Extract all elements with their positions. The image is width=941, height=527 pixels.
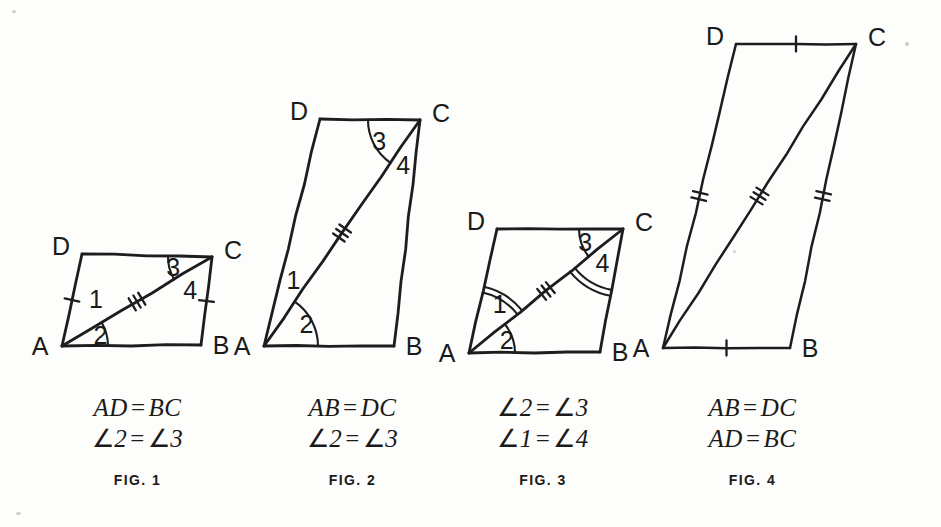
fig3-vertex-label-B: B <box>612 338 629 366</box>
caption-line-1: AD=BC <box>30 392 245 423</box>
figure-4-drawing: ABCD <box>633 22 886 362</box>
fig2-side-DC <box>320 119 420 120</box>
fig4-vertex-label-A: A <box>633 334 650 362</box>
caption-line-2: ∠2=∠3 <box>245 423 460 454</box>
fig2-side-AB <box>264 346 394 347</box>
fig1-tick-AD <box>65 298 80 301</box>
fig4-vertex-label-C: C <box>868 23 886 51</box>
fig1-vertex-label-B: B <box>213 331 230 359</box>
caption-figure-3: ∠2=∠3 ∠1=∠4 FIG. 3 <box>443 392 643 488</box>
caption-line-1: AB=DC <box>645 392 860 423</box>
fig1-side-AB <box>62 345 201 346</box>
fig1-angle-label-3: 3 <box>166 253 180 281</box>
paper-speck <box>733 250 736 253</box>
fig3-angle-label-2: 2 <box>500 326 514 354</box>
paper-speck <box>12 10 16 13</box>
fig2-angle-label-1: 1 <box>287 266 301 294</box>
fig4-tick-BC <box>815 198 830 201</box>
fig2-angle-label-4: 4 <box>396 151 410 179</box>
paper-speck <box>905 42 909 46</box>
figure-board: ABCD1234 ABCD1234 ABCD1234 ABCD AD=BC ∠2… <box>0 0 941 527</box>
caption-line-2: AD=BC <box>645 423 860 454</box>
fig2-vertex-label-B: B <box>406 332 423 360</box>
figure-3-drawing: ABCD1234 <box>439 207 653 367</box>
fig2-vertex-label-D: D <box>290 97 308 125</box>
fig4-side-BC <box>790 44 856 348</box>
fig1-vertex-label-C: C <box>224 236 242 264</box>
figure-number-label: FIG. 1 <box>30 472 245 488</box>
fig1-angle-label-4: 4 <box>183 276 197 304</box>
figure-1-drawing: ABCD1234 <box>32 232 242 360</box>
caption-line-2: ∠1=∠4 <box>443 423 643 454</box>
fig3-side-DC <box>497 229 623 230</box>
fig3-angle-label-4: 4 <box>596 249 610 277</box>
paper-speck <box>16 512 21 515</box>
fig3-side-AB <box>469 352 600 353</box>
caption-line-1: AB=DC <box>245 392 460 423</box>
fig1-angle-label-1: 1 <box>89 285 103 313</box>
fig4-vertex-label-B: B <box>802 334 819 362</box>
figure-2-drawing: ABCD1234 <box>234 97 450 360</box>
fig1-vertex-label-D: D <box>52 232 70 260</box>
fig1-vertex-label-A: A <box>32 332 49 360</box>
fig4-vertex-label-D: D <box>706 22 724 50</box>
caption-figure-2: AB=DC ∠2=∠3 FIG. 2 <box>245 392 460 488</box>
fig3-vertex-label-C: C <box>635 208 653 236</box>
fig1-side-DC <box>82 254 212 257</box>
fig2-angle-label-3: 3 <box>372 127 386 155</box>
fig2-vertex-label-C: C <box>432 99 450 127</box>
figure-number-label: FIG. 3 <box>443 472 643 488</box>
fig1-tick-BC <box>199 300 214 302</box>
fig3-vertex-label-A: A <box>439 339 456 367</box>
caption-figure-4: AB=DC AD=BC FIG. 4 <box>645 392 860 488</box>
fig3-angle-label-1: 1 <box>493 290 507 318</box>
caption-line-2: ∠2=∠3 <box>30 423 245 454</box>
fig1-angle-label-2: 2 <box>94 321 108 349</box>
figure-number-label: FIG. 2 <box>245 472 460 488</box>
fig2-vertex-label-A: A <box>234 332 251 360</box>
caption-line-1: ∠2=∠3 <box>443 392 643 423</box>
fig4-tick-BC <box>816 191 831 194</box>
figure-number-label: FIG. 4 <box>645 472 860 488</box>
fig3-angle-label-3: 3 <box>578 228 592 256</box>
fig2-angle-label-2: 2 <box>300 310 314 338</box>
fig4-side-AD <box>663 44 736 348</box>
caption-figure-1: AD=BC ∠2=∠3 FIG. 1 <box>30 392 245 488</box>
fig3-vertex-label-D: D <box>467 207 485 235</box>
